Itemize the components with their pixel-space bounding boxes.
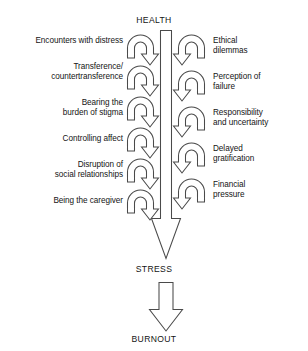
- stressor-label-right-2: Perception of failure: [213, 72, 305, 92]
- u-turn-arrow-right-icon: [128, 97, 159, 127]
- node-label-burnout: BURNOUT: [0, 334, 308, 344]
- u-turn-arrow-left-icon: [174, 35, 205, 65]
- stressor-label-right-4: Delayed gratification: [213, 144, 305, 164]
- stressor-label-left-2: Transference/ countertransference: [6, 62, 123, 82]
- stressor-label-right-5: Financial pressure: [213, 180, 305, 200]
- stress-to-burnout-arrow: [150, 283, 183, 332]
- right-uturn-arrows-group: [174, 35, 205, 209]
- node-label-stress: STRESS: [0, 264, 308, 274]
- node-label-health: HEALTH: [0, 15, 308, 25]
- left-uturn-arrows-group: [128, 35, 159, 220]
- u-turn-arrow-left-icon: [174, 71, 205, 101]
- stressor-label-left-5: Disruption of social relationships: [6, 160, 123, 180]
- u-turn-arrow-right-icon: [128, 66, 159, 96]
- u-turn-arrow-right-icon: [128, 128, 159, 158]
- stressor-label-left-1: Encounters with distress: [6, 36, 123, 46]
- burnout-flow-diagram: HEALTH STRESS BURNOUT Encounters with di…: [0, 0, 308, 351]
- stressor-label-left-4: Controlling affect: [6, 134, 123, 144]
- stressor-label-right-3: Responsibility and uncertainty: [213, 108, 305, 128]
- u-turn-arrow-left-icon: [174, 107, 205, 137]
- main-flow-arrow: [152, 31, 181, 259]
- stressor-label-right-1: Ethical dilemmas: [213, 36, 305, 56]
- u-turn-arrow-right-icon: [128, 35, 159, 65]
- u-turn-arrow-right-icon: [128, 190, 159, 220]
- u-turn-arrow-left-icon: [174, 179, 205, 209]
- stressor-label-left-3: Bearing the burden of stigma: [6, 98, 123, 118]
- stressor-label-left-6: Being the caregiver: [6, 196, 123, 206]
- u-turn-arrow-right-icon: [128, 159, 159, 189]
- u-turn-arrow-left-icon: [174, 143, 205, 173]
